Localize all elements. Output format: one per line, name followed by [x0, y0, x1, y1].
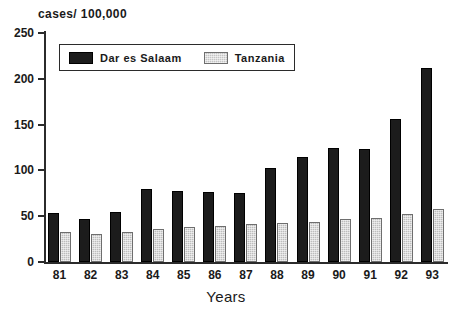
legend-swatch-light-icon [204, 52, 228, 64]
x-axis-tick-label: 92 [387, 268, 415, 284]
bar [234, 193, 245, 262]
bar [48, 213, 59, 262]
legend-item-dar-es-salaam: Dar es Salaam [69, 52, 182, 64]
bar [297, 157, 308, 262]
bar [309, 222, 320, 262]
legend-swatch-dark-icon [69, 52, 93, 64]
bar [215, 226, 226, 262]
bar [203, 192, 214, 262]
bar [60, 232, 71, 262]
y-axis-tick-label: 150 [0, 119, 34, 131]
x-axis-tick-label: 86 [201, 268, 229, 284]
x-axis-tick-label: 90 [325, 268, 353, 284]
x-axis-line [44, 262, 448, 264]
legend-item-tanzania: Tanzania [204, 52, 285, 64]
bar [91, 234, 102, 262]
y-axis-tick-label: 50 [0, 210, 34, 222]
y-axis-tick-label: 250 [0, 27, 34, 39]
bar-chart: cases/ 100,000 050100150200250 818283848… [0, 0, 452, 320]
bar [421, 68, 432, 262]
bar [172, 191, 183, 262]
bar-group [297, 33, 320, 262]
bar [340, 219, 351, 262]
bar [390, 119, 401, 262]
bar [371, 218, 382, 262]
x-axis-title: Years [0, 288, 452, 305]
bar-group [390, 33, 413, 262]
bar [79, 219, 90, 262]
x-axis-tick-label: 81 [46, 268, 74, 284]
x-axis-tick-labels: 81828384858687888990919293 [44, 268, 448, 284]
x-axis-tick-label: 91 [356, 268, 384, 284]
bar [184, 227, 195, 262]
y-axis-tick-label: 200 [0, 73, 34, 85]
bar [265, 168, 276, 262]
x-axis-tick-label: 87 [232, 268, 260, 284]
bar [277, 223, 288, 262]
x-axis-tick-label: 89 [294, 268, 322, 284]
legend-label-dar-es-salaam: Dar es Salaam [100, 52, 182, 64]
bar [153, 229, 164, 262]
bar [122, 232, 133, 262]
x-axis-tick-label: 85 [170, 268, 198, 284]
bar [402, 214, 413, 262]
bar [110, 212, 121, 262]
x-axis-tick-label: 83 [108, 268, 136, 284]
x-axis-tick-label: 84 [139, 268, 167, 284]
bar-group [328, 33, 351, 262]
x-axis-tick-label: 88 [263, 268, 291, 284]
y-axis-tick-label: 100 [0, 164, 34, 176]
bar [141, 189, 152, 262]
bar [433, 209, 444, 262]
x-axis-tick-label: 93 [418, 268, 446, 284]
bar [359, 149, 370, 262]
legend-label-tanzania: Tanzania [235, 52, 285, 64]
chart-legend: Dar es Salaam Tanzania [59, 44, 295, 71]
bar-group [359, 33, 382, 262]
bar [246, 224, 257, 262]
bar [328, 148, 339, 263]
x-axis-tick-label: 82 [77, 268, 105, 284]
y-axis-title: cases/ 100,000 [38, 7, 127, 21]
bar-group [421, 33, 444, 262]
y-axis-tick-label: 0 [0, 256, 34, 268]
